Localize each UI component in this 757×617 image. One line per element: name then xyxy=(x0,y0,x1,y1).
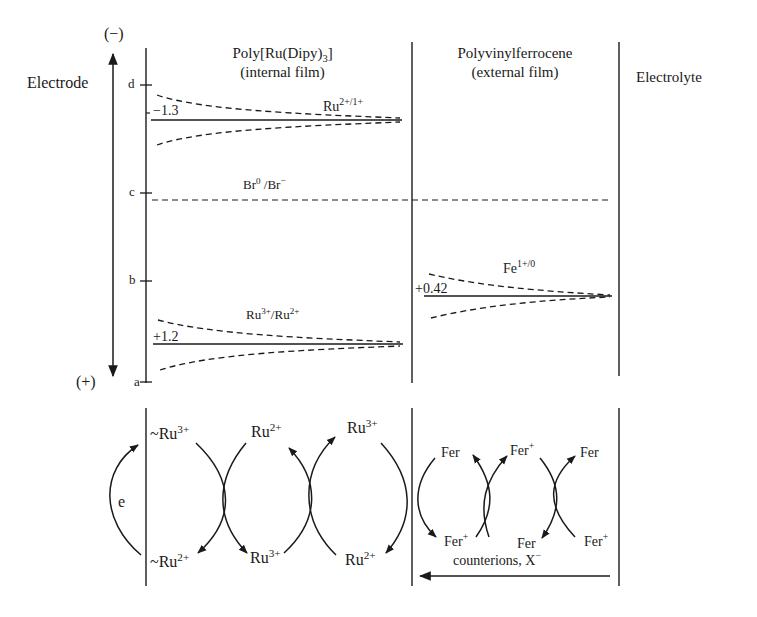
ru-2-1-label: Ru2+/1+ xyxy=(323,100,363,114)
ru-3-2-label: Ru3+/Ru2+ xyxy=(246,308,299,321)
fer-bottom-2: Fer xyxy=(517,537,536,551)
ru-3-2-potential: +1.2 xyxy=(153,330,178,344)
energy-diagram-graphics xyxy=(0,0,757,617)
tick-label-b: b xyxy=(129,273,136,286)
fer-top-3: Fer xyxy=(580,446,599,460)
internal-film-header: Poly[Ru(Dipy)3] (internal film) xyxy=(185,44,380,82)
positive-pole-label: (+) xyxy=(76,374,96,390)
ru-top-3: Ru3+ xyxy=(347,420,378,436)
fer-bottom-3: Fer+ xyxy=(584,535,608,549)
fer-bottom-1: Fer+ xyxy=(444,535,468,549)
counterion-label: counterions, X− xyxy=(453,554,541,568)
tick-label-d: d xyxy=(128,77,135,90)
electron-label: e xyxy=(118,494,125,510)
tick-label-a: a xyxy=(134,375,140,388)
ru-top-1: ~Ru3+ xyxy=(150,426,189,442)
ru-exchange-arrows xyxy=(196,437,407,555)
ru-2-1-potential: −1.3 xyxy=(153,104,178,118)
fer-top-2: Fer+ xyxy=(510,444,534,458)
ru-bottom-1: ~Ru2+ xyxy=(150,554,189,570)
fer-exchange-arrows xyxy=(418,455,575,538)
electron-transfer-arrow xyxy=(110,445,141,555)
ru-bottom-3: Ru2+ xyxy=(345,552,376,568)
fe-label: Fe1+/0 xyxy=(503,262,535,276)
ru-top-2: Ru2+ xyxy=(251,424,282,440)
ru-3-2-level xyxy=(153,320,403,370)
external-film-header: Polyvinylferrocene (external film) xyxy=(425,44,605,82)
electrode-label: Electrode xyxy=(27,75,88,91)
fe-level xyxy=(424,274,612,318)
electrolyte-header: Electrolyte xyxy=(636,68,702,87)
br-label: Br0 /Br− xyxy=(243,178,286,191)
ru-bottom-2: Ru3+ xyxy=(250,550,281,566)
fer-top-1: Fer xyxy=(441,446,460,460)
tick-label-c: c xyxy=(129,185,135,198)
negative-pole-label: (−) xyxy=(104,26,124,42)
ru-2-1-level xyxy=(146,95,402,145)
fe-potential: +0.42 xyxy=(415,282,447,296)
